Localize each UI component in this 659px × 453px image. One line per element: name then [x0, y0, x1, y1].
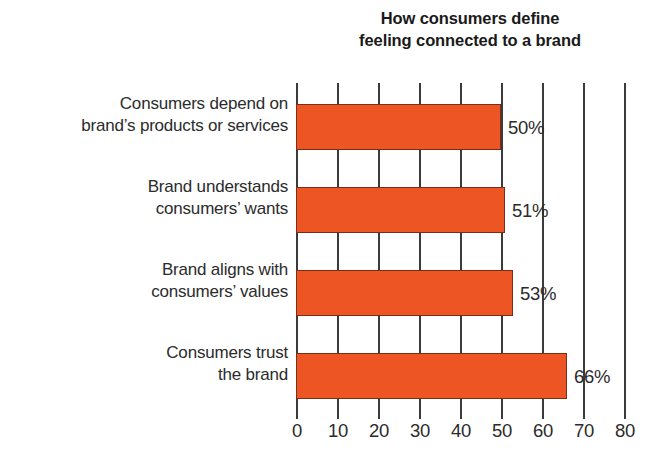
tick-mark-60 — [542, 410, 544, 419]
category-label-4-line-2: the brand — [8, 364, 288, 386]
tick-mark-50 — [501, 410, 503, 419]
category-label-2: Brand understands consumers’ wants — [8, 176, 288, 220]
tick-label-70: 70 — [574, 422, 594, 441]
bar-chart: How consumers define feeling connected t… — [0, 0, 659, 453]
category-label-3-line-1: Brand aligns with — [8, 259, 288, 281]
tick-mark-70 — [583, 410, 585, 419]
category-label-1-line-2: brand’s products or services — [8, 115, 288, 137]
tick-mark-10 — [337, 410, 339, 419]
bar-3 — [296, 270, 513, 316]
category-label-1-line-1: Consumers depend on — [8, 93, 288, 115]
gridline-80 — [624, 83, 626, 410]
tick-label-20: 20 — [369, 422, 389, 441]
bar-1 — [296, 104, 501, 150]
tick-label-10: 10 — [328, 422, 348, 441]
category-label-2-line-1: Brand understands — [8, 176, 288, 198]
tick-label-50: 50 — [492, 422, 512, 441]
tick-mark-80 — [624, 410, 626, 419]
tick-mark-20 — [378, 410, 380, 419]
tick-label-80: 80 — [615, 422, 635, 441]
category-label-4-line-1: Consumers trust — [8, 342, 288, 364]
chart-title: How consumers define feeling connected t… — [290, 8, 650, 52]
category-label-3: Brand aligns with consumers’ values — [8, 259, 288, 303]
gridline-70 — [583, 83, 585, 410]
tick-label-30: 30 — [410, 422, 430, 441]
bar-value-3: 53% — [520, 285, 556, 304]
bar-value-1: 50% — [508, 119, 544, 138]
chart-title-line-2: feeling connected to a brand — [290, 30, 650, 52]
bar-2 — [296, 187, 505, 233]
category-label-1: Consumers depend on brand’s products or … — [8, 93, 288, 137]
chart-title-line-1: How consumers define — [290, 8, 650, 30]
tick-mark-30 — [419, 410, 421, 419]
plot-area: 50% 51% 53% 66% — [296, 83, 625, 410]
tick-mark-0 — [296, 410, 298, 419]
value-axis: 0 10 20 30 40 50 60 70 80 — [296, 410, 636, 453]
tick-label-0: 0 — [292, 422, 302, 441]
category-label-3-line-2: consumers’ values — [8, 281, 288, 303]
category-label-2-line-2: consumers’ wants — [8, 198, 288, 220]
bar-value-2: 51% — [512, 202, 548, 221]
category-axis-labels: Consumers depend on brand’s products or … — [0, 83, 288, 410]
category-label-4: Consumers trust the brand — [8, 342, 288, 386]
bar-4 — [296, 353, 567, 399]
bar-value-4: 66% — [574, 368, 610, 387]
tick-label-40: 40 — [451, 422, 471, 441]
tick-label-60: 60 — [533, 422, 553, 441]
tick-mark-40 — [460, 410, 462, 419]
